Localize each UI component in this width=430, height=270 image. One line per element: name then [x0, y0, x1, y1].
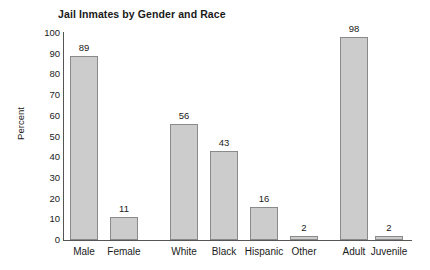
bar	[250, 207, 278, 240]
bar	[340, 37, 368, 240]
bar	[375, 236, 403, 240]
bar-value-label: 98	[330, 24, 378, 34]
bar	[110, 217, 138, 240]
bar	[170, 124, 198, 240]
y-axis-title: Percent	[15, 94, 26, 154]
y-axis-tick-labels: 1009080706050403020100	[30, 0, 60, 270]
bar-value-label: 2	[280, 223, 328, 233]
y-tick-label: 100	[34, 28, 60, 38]
bar-value-label: 16	[240, 194, 288, 204]
chart-title: Jail Inmates by Gender and Race	[58, 8, 226, 20]
bar-value-label: 2	[365, 223, 413, 233]
bar	[70, 56, 98, 240]
bar-value-label: 56	[160, 111, 208, 121]
bar	[290, 236, 318, 240]
bar	[210, 151, 238, 240]
y-tick-label: 80	[34, 69, 60, 79]
y-tick-label: 30	[34, 173, 60, 183]
x-category-label: Juvenile	[359, 246, 419, 257]
y-tick-label: 20	[34, 194, 60, 204]
x-category-label: Female	[94, 246, 154, 257]
bar-chart: Jail Inmates by Gender and Race Percent …	[0, 0, 430, 270]
y-tick-label: 60	[34, 111, 60, 121]
y-tick-label: 70	[34, 90, 60, 100]
y-tick-label: 90	[34, 49, 60, 59]
bar-value-label: 43	[200, 138, 248, 148]
y-tick-label: 50	[34, 132, 60, 142]
bar-value-label: 89	[60, 43, 108, 53]
y-tick-label: 10	[34, 214, 60, 224]
bar-value-label: 11	[100, 204, 148, 214]
y-tick-label: 0	[34, 235, 60, 245]
x-axis-line	[63, 240, 412, 241]
y-tick-label: 40	[34, 152, 60, 162]
